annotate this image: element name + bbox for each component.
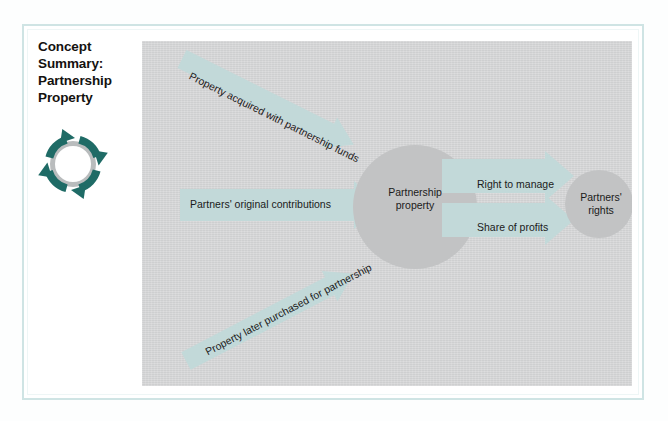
page-sheet: Concept Summary: Partnership Property bbox=[0, 0, 668, 421]
cycle-arrows-icon bbox=[36, 126, 110, 202]
page-title: Concept Summary: Partnership Property bbox=[38, 38, 138, 106]
node-label-partners-rights: Partners' rights bbox=[570, 191, 632, 217]
page-title-line-4: Property bbox=[38, 89, 138, 106]
arrow-label-share-of-profits: Share of profits bbox=[477, 221, 548, 233]
page-title-line-1: Concept bbox=[38, 38, 138, 55]
arrow-label-right-to-manage: Right to manage bbox=[477, 178, 554, 190]
page-title-line-3: Partnership bbox=[38, 72, 138, 89]
diagram-panel: Partnership property Partners' rights Pr… bbox=[142, 41, 632, 386]
node-label-partners-rights-line-2: rights bbox=[570, 204, 632, 217]
node-label-partnership-property-line-1: Partnership bbox=[370, 186, 460, 199]
node-label-partners-rights-line-1: Partners' bbox=[570, 191, 632, 204]
node-label-partnership-property-line-2: property bbox=[370, 199, 460, 212]
arrow-label-original-contributions: Partners' original contributions bbox=[190, 198, 331, 210]
title-column: Concept Summary: Partnership Property bbox=[38, 38, 138, 106]
page-title-line-2: Summary: bbox=[38, 55, 138, 72]
node-label-partnership-property: Partnership property bbox=[370, 186, 460, 212]
